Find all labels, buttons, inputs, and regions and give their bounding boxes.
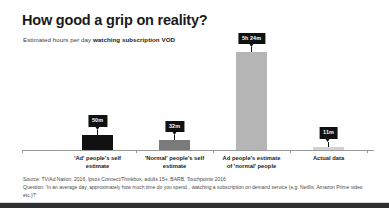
category-label-line: estimate <box>131 163 219 171</box>
chart-subtitle-strong: watching subscription VOD <box>93 36 175 43</box>
x-axis-category-label: Ad people's estimateof 'normal' people <box>208 155 296 171</box>
x-axis-category-label: 'Ad' people's selfestimate <box>54 155 142 171</box>
chart-subtitle: Estimated hours per day watching subscri… <box>23 36 175 43</box>
x-axis-line <box>22 150 374 151</box>
data-label-badge: 32m <box>165 121 184 132</box>
x-axis-category-label: 'Normal' people's selfestimate <box>131 155 219 171</box>
x-axis-category-label: Actual data <box>285 155 373 163</box>
data-label-stem <box>174 135 175 140</box>
bar[interactable] <box>159 140 190 150</box>
data-label-stem <box>97 130 98 135</box>
x-axis-tick <box>136 150 137 153</box>
footnote-question: Question: 'In an average day, approximat… <box>23 184 375 200</box>
page-title: How good a grip on reality? <box>22 12 208 28</box>
data-label-badge: 50m <box>88 115 107 126</box>
bar-column: 50m <box>82 52 113 150</box>
data-label-stem <box>328 142 329 147</box>
bar[interactable] <box>236 52 267 150</box>
data-label-stem <box>251 47 252 52</box>
slide-canvas: How good a grip on reality? Estimated ho… <box>0 0 389 208</box>
bottom-rule <box>0 203 389 208</box>
bar-column: 5h 24m <box>236 52 267 150</box>
category-label-line: Actual data <box>285 155 373 163</box>
data-label-badge: 5h 24m <box>238 33 265 44</box>
category-label-line: Ad people's estimate <box>208 155 296 163</box>
x-axis-tick <box>290 150 291 153</box>
chart-subtitle-plain: Estimated hours per day <box>23 36 93 43</box>
bar-column: 11m <box>313 52 344 150</box>
category-label-line: 'Normal' people's self <box>131 155 219 163</box>
bar-column: 32m <box>159 52 190 150</box>
x-axis-tick-origin <box>22 150 23 153</box>
footnote-source: Source: TV/Ad Nation, 2016, Ipsos Connec… <box>23 176 375 184</box>
category-label-line: 'Ad' people's self <box>54 155 142 163</box>
footnote: Source: TV/Ad Nation, 2016, Ipsos Connec… <box>23 176 375 199</box>
x-axis-tick <box>367 150 368 153</box>
category-label-line: of 'normal' people <box>208 163 296 171</box>
page-title-text: How good a grip on reality? <box>22 12 208 28</box>
x-axis-tick <box>213 150 214 153</box>
category-label-line: estimate <box>54 163 142 171</box>
bar-chart-plot-area: 50m32m5h 24m11m <box>22 52 374 150</box>
data-label-badge: 11m <box>319 127 338 138</box>
bar[interactable] <box>82 135 113 150</box>
